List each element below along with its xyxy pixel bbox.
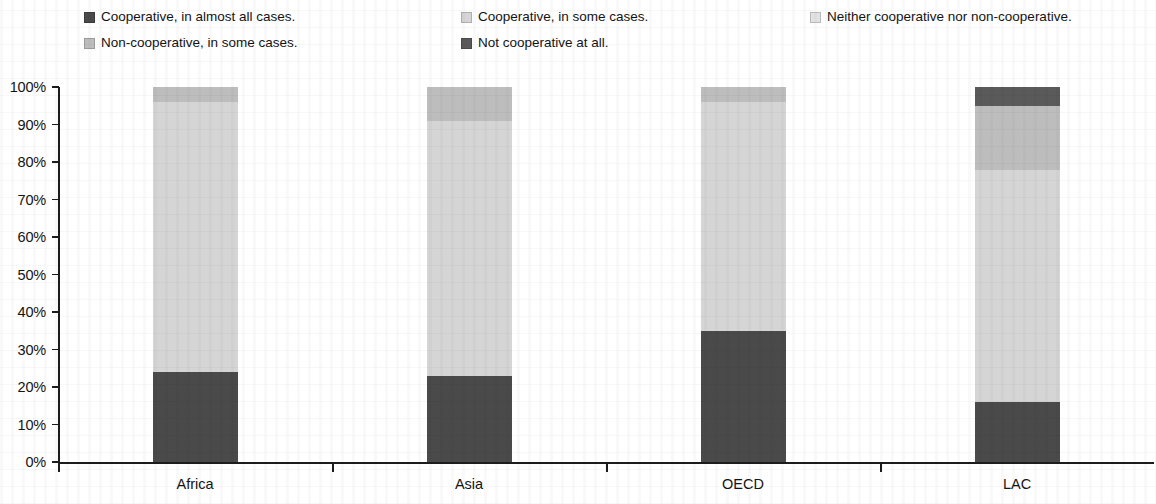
legend-item[interactable]: Non-cooperative, in some cases.: [84, 36, 298, 50]
bar-segment[interactable]: [701, 87, 786, 102]
y-axis-labels: 100%90%80%70%60%50%40%30%20%10%0%: [0, 62, 46, 504]
legend-item-label: Not cooperative at all.: [478, 36, 609, 50]
bar-segment[interactable]: [701, 102, 786, 331]
stacked-bar[interactable]: [427, 87, 512, 462]
y-axis-tick-label: 0%: [0, 455, 46, 470]
stacked-bar[interactable]: [701, 87, 786, 462]
legend-item-label: Cooperative, in almost all cases.: [101, 10, 295, 24]
x-axis-category-label: Africa: [176, 476, 213, 492]
bar-segment[interactable]: [153, 102, 238, 372]
bar-segment[interactable]: [975, 106, 1060, 170]
y-axis-tick-label: 40%: [0, 305, 46, 320]
y-axis-tick-label: 60%: [0, 230, 46, 245]
x-axis-tick-mark: [606, 464, 608, 472]
y-axis-tick-mark: [52, 161, 59, 163]
legend-item[interactable]: Cooperative, in some cases.: [461, 10, 648, 24]
bar-segment[interactable]: [153, 87, 238, 102]
y-axis-tick-label: 10%: [0, 418, 46, 433]
x-axis-category-label: LAC: [1003, 476, 1031, 492]
legend-item[interactable]: Cooperative, in almost all cases.: [84, 10, 295, 24]
y-axis-tick-mark: [52, 199, 59, 201]
stacked-bar[interactable]: [975, 87, 1060, 462]
y-axis-tick-label: 30%: [0, 343, 46, 358]
x-axis-category-label: Asia: [455, 476, 483, 492]
y-axis-tick-mark: [52, 274, 59, 276]
legend-swatch-icon: [461, 12, 472, 23]
bar-segment[interactable]: [975, 170, 1060, 403]
y-axis-tick-label: 100%: [0, 80, 46, 95]
bar-segment[interactable]: [975, 402, 1060, 462]
legend-item-label: Cooperative, in some cases.: [478, 10, 648, 24]
x-axis-tick-mark: [58, 464, 60, 472]
y-axis-tick-mark: [52, 386, 59, 388]
y-axis-tick-label: 90%: [0, 118, 46, 133]
x-axis-category-label: OECD: [722, 476, 764, 492]
bar-segment[interactable]: [975, 87, 1060, 106]
legend-swatch-icon: [84, 12, 95, 23]
y-axis-tick-mark: [52, 311, 59, 313]
bar-segment[interactable]: [153, 372, 238, 462]
legend-item[interactable]: Not cooperative at all.: [461, 36, 609, 50]
y-axis-tick-label: 70%: [0, 193, 46, 208]
legend-item[interactable]: Neither cooperative nor non-cooperative.: [810, 10, 1072, 24]
bar-segment[interactable]: [427, 87, 512, 121]
legend-item-label: Non-cooperative, in some cases.: [101, 36, 298, 50]
legend-item-label: Neither cooperative nor non-cooperative.: [827, 10, 1072, 24]
y-axis-tick-mark: [52, 86, 59, 88]
bar-segment[interactable]: [701, 331, 786, 462]
y-axis-tick-label: 50%: [0, 268, 46, 283]
stacked-bar[interactable]: [153, 87, 238, 462]
bar-segment[interactable]: [427, 376, 512, 462]
legend-swatch-icon: [84, 38, 95, 49]
y-axis-tick-mark: [52, 236, 59, 238]
bar-segment[interactable]: [427, 121, 512, 376]
y-axis-tick-label: 80%: [0, 155, 46, 170]
legend-swatch-icon: [810, 12, 821, 23]
y-axis-tick-mark: [52, 349, 59, 351]
y-axis-tick-mark: [52, 124, 59, 126]
x-axis-tick-mark: [332, 464, 334, 472]
legend-swatch-icon: [461, 38, 472, 49]
chart-legend: Cooperative, in almost all cases.Coopera…: [0, 0, 1156, 62]
y-axis-tick-label: 20%: [0, 380, 46, 395]
x-axis-labels: AfricaAsiaOECDLAC: [58, 476, 1154, 504]
chart-plot-area: 100%90%80%70%60%50%40%30%20%10%0% Africa…: [0, 62, 1156, 504]
bars-layer: [58, 87, 1154, 462]
x-axis-tick-mark: [880, 464, 882, 472]
y-axis-tick-mark: [52, 424, 59, 426]
y-axis-tick-mark: [52, 461, 59, 463]
